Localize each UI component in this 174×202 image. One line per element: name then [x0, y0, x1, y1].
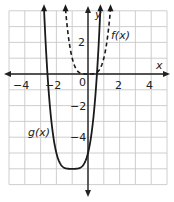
arrow-up-icon	[41, 4, 47, 11]
x-axis-label: x	[155, 59, 163, 72]
curve-arrows	[41, 4, 113, 11]
graph: y x f(x) g(x) −4 −2 0 2 4 2 −2 −4	[0, 0, 174, 202]
x-axis-left-arrow-icon	[4, 71, 11, 77]
g-label: g(x)	[28, 126, 50, 139]
origin-label: 0	[79, 76, 86, 89]
y-axis-up-arrow-icon	[85, 6, 91, 13]
y-axis-down-arrow-icon	[85, 190, 91, 197]
x-tick-label: 4	[146, 79, 153, 92]
x-axis-right-arrow-icon	[163, 71, 170, 77]
y-axis-label: y	[94, 8, 102, 21]
y-tick-label: −4	[70, 131, 86, 144]
x-tick-label: 2	[115, 79, 122, 92]
arrow-up-icon	[107, 4, 113, 11]
y-tick-label: 2	[78, 36, 85, 49]
f-label: f(x)	[111, 29, 130, 42]
x-tick-label: −2	[45, 79, 61, 92]
y-tick-label: −2	[70, 100, 86, 113]
x-tick-label: −4	[13, 79, 29, 92]
arrow-up-icon	[63, 4, 69, 11]
